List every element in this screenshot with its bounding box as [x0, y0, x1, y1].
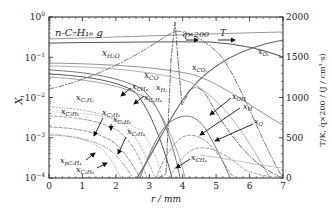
svg-text:10−3: 10−3 — [25, 131, 45, 143]
curve-c2h6 — [49, 116, 147, 178]
label-c2h6: xC₂H₆ — [113, 115, 132, 125]
label-co: xCO — [144, 70, 159, 81]
svg-text:500: 500 — [286, 133, 303, 143]
left-y-tick-labels: 100 10−1 10−2 10−3 10−4 — [25, 10, 45, 183]
label-c2h4: xC₂H₄ — [144, 93, 162, 103]
curve-oh — [140, 116, 230, 178]
label-o2: xO₂ — [258, 47, 269, 57]
svg-text:0: 0 — [286, 173, 292, 183]
svg-text:10−1: 10−1 — [25, 51, 45, 63]
svg-text:2: 2 — [113, 181, 119, 191]
label-c6h4: xC₆H₄ — [127, 127, 145, 137]
x-tick-labels: 0 1 2 3 4 5 6 7 — [46, 181, 286, 191]
arrow-pc3h4 — [86, 153, 95, 160]
curve-o2 — [137, 40, 283, 178]
label-c2h2: xC₂H₂ — [76, 93, 94, 103]
svg-text:0: 0 — [46, 181, 52, 191]
svg-text:4: 4 — [180, 181, 186, 191]
curve-c3h6 — [49, 107, 155, 178]
svg-text:1000: 1000 — [286, 93, 309, 103]
species-labels: n-C₇H₁₆ g xH₂O xCO xH₂ xCO₂ xO₂ xCH₄ xC₂… — [55, 27, 269, 175]
right-y-axis-label: T/K, q̇×200 / (J / cm³·s) — [318, 53, 327, 146]
curve-ch4-lean — [200, 155, 283, 168]
right-y-tick-labels: 2000 1500 1000 500 0 — [286, 12, 309, 183]
label-t: T — [220, 28, 227, 38]
label-q: q̇×200 — [182, 30, 209, 39]
arrow-c3h8 — [97, 163, 107, 168]
svg-text:10−2: 10−2 — [25, 91, 45, 103]
label-title: n-C₇H₁₆ g — [55, 27, 103, 38]
curve-heat-release — [158, 22, 283, 178]
svg-text:5: 5 — [213, 181, 219, 191]
label-c3h8: xC₃H₈ — [76, 165, 95, 175]
curve-o — [170, 148, 283, 178]
svg-text:3: 3 — [146, 181, 152, 191]
arrow-c6h4 — [118, 137, 126, 154]
species-profile-chart: n-C₇H₁₆ g xH₂O xCO xH₂ xCO₂ xO₂ xCH₄ xC₂… — [0, 0, 332, 215]
label-ch4-lean: xCH₄ — [191, 153, 207, 163]
curve-c6h4 — [49, 112, 162, 178]
x-axis-label: r / mm — [151, 194, 181, 204]
svg-text:1500: 1500 — [286, 52, 309, 62]
svg-text:6: 6 — [247, 181, 253, 191]
left-y-axis-label: Xi — [13, 95, 25, 105]
curve-co — [49, 63, 283, 125]
label-o: xO — [254, 117, 264, 127]
svg-text:2000: 2000 — [286, 12, 309, 22]
label-h2o: xH₂O — [102, 48, 120, 59]
label-ch4: xCH₄ — [132, 82, 148, 92]
label-co2: xCO₂ — [192, 63, 207, 73]
arrow-c3h6 — [94, 118, 103, 136]
label-oh: xOH — [232, 92, 246, 102]
svg-text:1: 1 — [80, 181, 86, 191]
label-h2: xH₂ — [156, 83, 168, 93]
svg-text:10−4: 10−4 — [25, 171, 45, 183]
label-c3h6: xC₃H₆ — [102, 108, 121, 118]
svg-text:100: 100 — [30, 10, 45, 22]
